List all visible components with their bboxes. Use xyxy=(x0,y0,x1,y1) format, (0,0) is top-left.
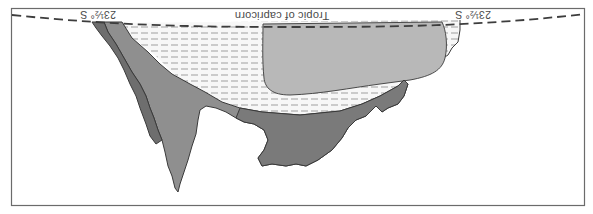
tropic-of-capricorn-label: Tropic of capricorn xyxy=(222,10,342,22)
latitude-label-left: 23½° S xyxy=(80,9,116,21)
latitude-label-right: 23½° S xyxy=(455,9,491,21)
map-figure xyxy=(0,0,593,214)
